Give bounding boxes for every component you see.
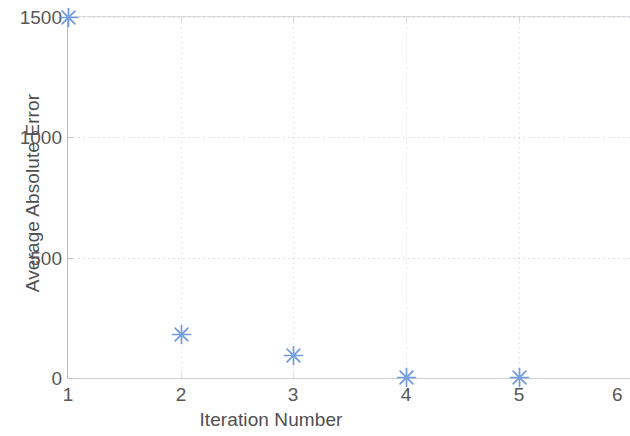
axis-line-top [68,16,630,17]
tick-top-4 [406,17,407,22]
tick-left-0 [68,378,73,379]
tick-left-1000 [68,137,73,138]
ytick-label-1500: 1500 [4,8,62,27]
tick-top-2 [181,17,182,22]
gridline-y-500 [68,258,630,259]
tick-left-500 [68,258,73,259]
tick-top-5 [519,17,520,22]
figure-canvas: 1500 1000 500 0 1 2 3 4 5 6 Iteration Nu… [0,0,630,436]
tick-bottom-4 [406,373,407,378]
xtick-label-3: 3 [273,385,313,404]
gridline-x-4 [406,17,407,378]
gridline-x-5 [519,17,520,378]
tick-bottom-2 [181,373,182,378]
gridline-x-3 [293,17,294,378]
x-axis-title: Iteration Number [0,409,630,431]
xtick-label-4: 4 [386,385,426,404]
axis-line-bottom [68,378,630,379]
xtick-label-5: 5 [499,385,539,404]
xtick-label-6: 6 [612,385,630,404]
gridline-y-1000 [68,137,630,138]
xtick-label-2: 2 [161,385,201,404]
gridline-y-1500 [68,17,630,18]
x-axis-title-text: Iteration Number [199,409,342,430]
axis-line-left [67,16,68,379]
xtick-label-1: 1 [48,385,88,404]
y-axis-title: Average Absolute Error [22,78,44,308]
tick-bottom-5 [519,373,520,378]
tick-bottom-3 [293,373,294,378]
gridline-x-2 [181,17,182,378]
tick-top-3 [293,17,294,22]
